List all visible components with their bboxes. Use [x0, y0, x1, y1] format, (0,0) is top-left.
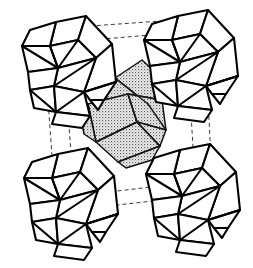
crystal-structure-diagram	[0, 0, 253, 268]
tl-face-bottom-tail	[52, 112, 90, 128]
figure-root	[0, 0, 253, 268]
tr-face-bottom-tail	[174, 106, 212, 122]
br-face-bottom-tail	[176, 240, 214, 256]
bl-face-bottom-tail	[54, 244, 92, 260]
